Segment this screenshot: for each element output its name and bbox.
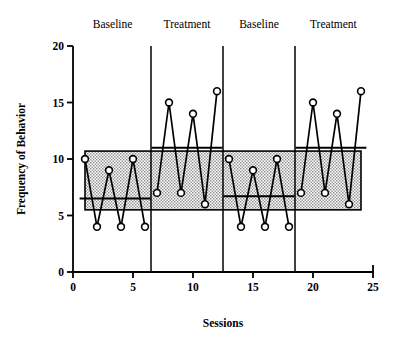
- y-tick-label-15: 15: [53, 97, 65, 109]
- phase-label-2: Treatment: [164, 18, 212, 30]
- data-point: [286, 223, 293, 230]
- data-point: [334, 110, 341, 117]
- phase-label-3: Baseline: [239, 18, 279, 30]
- data-point: [190, 110, 197, 117]
- y-axis-title: Frequency of Behavior: [15, 103, 28, 215]
- phase-label-1: Baseline: [93, 18, 133, 30]
- x-tick-label-5: 5: [130, 281, 136, 293]
- data-point: [274, 156, 281, 163]
- data-point: [142, 223, 149, 230]
- data-point: [226, 156, 233, 163]
- data-point: [94, 223, 101, 230]
- chart-figure: 05101520 0510152025 BaselineTreatmentBas…: [0, 0, 396, 343]
- x-tick-label-0: 0: [70, 281, 76, 293]
- data-point: [82, 156, 89, 163]
- data-point: [118, 223, 125, 230]
- data-point: [106, 167, 113, 174]
- data-point: [214, 88, 221, 95]
- data-point: [262, 223, 269, 230]
- abab-reversal-line-chart: 05101520 0510152025 BaselineTreatmentBas…: [0, 0, 396, 343]
- y-tick-label-5: 5: [58, 210, 64, 222]
- phase-label-4: Treatment: [310, 18, 358, 30]
- data-point: [250, 167, 257, 174]
- y-tick-label-20: 20: [53, 40, 65, 52]
- data-point: [238, 223, 245, 230]
- x-tick-label-20: 20: [307, 281, 319, 293]
- data-point: [298, 190, 305, 197]
- data-point: [130, 156, 137, 163]
- x-tick-label-25: 25: [367, 281, 379, 293]
- x-axis-title: Sessions: [203, 317, 244, 329]
- data-point: [358, 88, 365, 95]
- data-point: [154, 190, 161, 197]
- data-point: [166, 99, 173, 106]
- data-point: [322, 190, 329, 197]
- y-tick-label-10: 10: [53, 153, 65, 165]
- data-point: [310, 99, 317, 106]
- data-point: [346, 201, 353, 208]
- data-point: [202, 201, 209, 208]
- data-point: [178, 190, 185, 197]
- y-tick-label-0: 0: [58, 266, 64, 278]
- x-tick-label-10: 10: [187, 281, 199, 293]
- x-tick-label-15: 15: [247, 281, 259, 293]
